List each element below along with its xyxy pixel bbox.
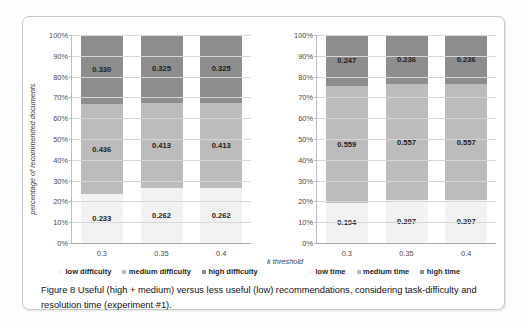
bar-segment-low: 0.262 — [200, 188, 242, 242]
y-tick-label: 80% — [298, 72, 313, 81]
charts-row: percentage of recommended documents 0.33… — [23, 21, 506, 279]
legend-label-medium: medium time — [363, 267, 409, 276]
gridline — [72, 35, 251, 36]
x-tick-label: 0.35 — [399, 249, 413, 258]
y-tick-label: 50% — [53, 135, 68, 144]
y-tick-label: 30% — [53, 176, 68, 185]
y-tick-label: 60% — [298, 114, 313, 123]
legend-label-medium: medium difficulty — [129, 267, 191, 276]
gridline — [317, 181, 496, 182]
chart-task-difficulty: percentage of recommended documents 0.33… — [23, 21, 261, 279]
gridline — [72, 56, 251, 57]
y-tick-mark — [69, 201, 72, 202]
gridline — [317, 243, 496, 244]
y-tick-label: 0% — [57, 239, 68, 248]
y-tick-mark — [314, 139, 317, 140]
bar-segment-high: 0.325 — [141, 35, 183, 103]
legend-right: low time medium time high time — [309, 267, 460, 276]
gridline — [317, 160, 496, 161]
y-tick-label: 20% — [298, 197, 313, 206]
plot-area-left: 0.3300.4360.2330.3250.4130.2620.3250.413… — [71, 35, 251, 243]
y-tick-mark — [69, 35, 72, 36]
gridline — [72, 243, 251, 244]
chart-resolution-time: 0.2470.5590.1940.2360.5570.2070.2360.557… — [261, 21, 506, 279]
y-tick-mark — [314, 97, 317, 98]
y-tick-label: 60% — [53, 114, 68, 123]
figure-caption: Figure 8 Useful (high + medium) versus l… — [41, 283, 481, 312]
x-tick-label: 0.3 — [97, 249, 107, 258]
gridline — [317, 118, 496, 119]
gridline — [317, 201, 496, 202]
gridline — [317, 139, 496, 140]
legend-swatch-medium-icon — [357, 270, 361, 274]
y-tick-mark — [69, 160, 72, 161]
gridline — [72, 118, 251, 119]
gridline — [72, 97, 251, 98]
y-tick-label: 90% — [298, 51, 313, 60]
y-tick-label: 50% — [298, 135, 313, 144]
y-tick-mark — [314, 243, 317, 244]
y-tick-mark — [69, 222, 72, 223]
gridline — [72, 139, 251, 140]
figure-card: percentage of recommended documents 0.33… — [22, 16, 505, 310]
bar-segment-high: 0.247 — [326, 35, 368, 86]
bar-segment-low: 0.262 — [141, 188, 183, 242]
legend-item-medium-difficulty[interactable]: medium difficulty — [122, 267, 191, 276]
y-tick-label: 0% — [302, 239, 313, 248]
x-axis-title: k threshold — [267, 257, 303, 266]
x-tick-label: 0.3 — [342, 249, 352, 258]
y-tick-mark — [69, 56, 72, 57]
figure-page: percentage of recommended documents 0.33… — [0, 0, 524, 327]
gridline — [72, 160, 251, 161]
bar-segment-med: 0.557 — [386, 84, 428, 200]
x-tick-label: 0.4 — [461, 249, 471, 258]
legend-item-high-difficulty[interactable]: high difficulty — [202, 267, 258, 276]
bar-segment-high: 0.325 — [200, 35, 242, 103]
y-tick-label: 100% — [49, 31, 68, 40]
y-tick-mark — [69, 181, 72, 182]
y-tick-label: 20% — [53, 197, 68, 206]
plot-area-right: 0.2470.5590.1940.2360.5570.2070.2360.557… — [316, 35, 496, 243]
y-tick-label: 30% — [298, 176, 313, 185]
gridline — [72, 222, 251, 223]
legend-item-low-difficulty[interactable]: low difficulty — [59, 267, 111, 276]
legend-item-high-time[interactable]: high time — [420, 267, 460, 276]
y-tick-mark — [314, 201, 317, 202]
gridline — [317, 97, 496, 98]
legend-item-low-time[interactable]: low time — [309, 267, 346, 276]
y-tick-label: 10% — [53, 218, 68, 227]
gridline — [317, 35, 496, 36]
y-tick-mark — [314, 181, 317, 182]
gridline — [72, 181, 251, 182]
y-tick-mark — [314, 77, 317, 78]
gridline — [317, 56, 496, 57]
x-tick-label: 0.35 — [154, 249, 168, 258]
y-tick-label: 40% — [298, 155, 313, 164]
legend-item-medium-time[interactable]: medium time — [357, 267, 410, 276]
bar-segment-med: 0.413 — [141, 103, 183, 189]
y-tick-mark — [314, 222, 317, 223]
y-tick-mark — [314, 160, 317, 161]
y-tick-mark — [69, 77, 72, 78]
gridline — [317, 222, 496, 223]
gridline — [72, 201, 251, 202]
legend-label-low: low time — [316, 267, 346, 276]
bar-segment-med: 0.413 — [200, 103, 242, 189]
legend-swatch-medium-icon — [122, 270, 126, 274]
y-tick-label: 70% — [298, 93, 313, 102]
bar-segment-med: 0.559 — [326, 86, 368, 202]
legend-swatch-low-icon — [309, 270, 313, 274]
legend-label-low: low difficulty — [66, 267, 112, 276]
bar-segment-med: 0.557 — [445, 84, 487, 200]
gridline — [72, 77, 251, 78]
y-tick-mark — [69, 97, 72, 98]
y-tick-mark — [314, 56, 317, 57]
y-tick-label: 90% — [53, 51, 68, 60]
y-axis-title: percentage of recommended documents — [25, 41, 39, 256]
bar-segment-high: 0.330 — [81, 35, 123, 104]
y-tick-mark — [314, 118, 317, 119]
legend-swatch-high-icon — [202, 270, 206, 274]
legend-left: low difficulty medium difficulty high di… — [59, 267, 258, 276]
legend-swatch-low-icon — [59, 270, 63, 274]
legend-swatch-high-icon — [420, 270, 424, 274]
